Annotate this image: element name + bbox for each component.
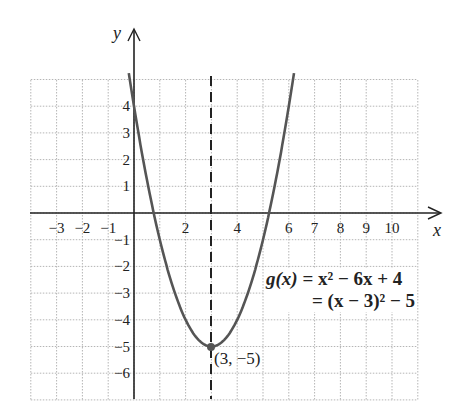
y-tick-label: −5 bbox=[114, 339, 130, 355]
equation-line-1: g(x) = x² − 6x + 4 bbox=[266, 268, 415, 290]
x-tick-label: 2 bbox=[182, 220, 190, 236]
x-tick-label: −3 bbox=[49, 220, 65, 236]
y-tick-label: 2 bbox=[123, 152, 131, 168]
y-axis-label: y bbox=[111, 23, 121, 43]
x-tick-label: 10 bbox=[385, 220, 400, 236]
y-tick-label: 4 bbox=[123, 98, 131, 114]
y-tick-label: −1 bbox=[114, 232, 130, 248]
x-tick-label: 4 bbox=[233, 220, 241, 236]
x-axis-label: x bbox=[432, 220, 441, 240]
x-tick-label: 6 bbox=[285, 220, 293, 236]
equation-box: g(x) = x² − 6x + 4 = (x − 3)² − 5 bbox=[264, 268, 417, 312]
y-tick-label: −4 bbox=[114, 312, 130, 328]
x-tick-label: 7 bbox=[311, 220, 319, 236]
x-tick-label: 9 bbox=[362, 220, 370, 236]
vertex-label: (3, −5) bbox=[214, 349, 260, 369]
y-tick-label: −3 bbox=[114, 285, 130, 301]
equation-rhs: = x² − 6x + 4 bbox=[298, 268, 403, 289]
y-tick-label: 1 bbox=[123, 178, 131, 194]
x-tick-label: −2 bbox=[74, 220, 90, 236]
y-tick-label: 3 bbox=[123, 125, 131, 141]
equation-line-2: = (x − 3)² − 5 bbox=[266, 290, 415, 312]
y-tick-label: −2 bbox=[114, 258, 130, 274]
y-tick-label: −6 bbox=[114, 365, 130, 381]
equation-lhs: g(x) bbox=[266, 268, 298, 289]
x-tick-label: 8 bbox=[337, 220, 345, 236]
